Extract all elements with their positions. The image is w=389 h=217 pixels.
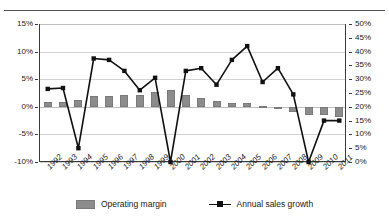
line-marker-1993 (61, 86, 65, 90)
left-axis-tick-label: 15% (0, 20, 33, 28)
right-axis-tick-label: 35% (355, 61, 389, 69)
left-axis-tickmark (35, 162, 38, 163)
left-axis-tickmark (35, 24, 38, 25)
right-axis-tickmark (349, 52, 352, 53)
legend-label-annual-sales-growth: Annual sales growth (237, 200, 314, 209)
right-axis-tick-label: 5% (355, 144, 389, 152)
line-marker-2004 (230, 58, 234, 62)
line-marker-1992 (46, 87, 50, 91)
left-axis-tick-label: 10% (0, 48, 33, 56)
legend-label-operating-margin: Operating margin (101, 200, 167, 209)
right-axis-tickmark (349, 121, 352, 122)
right-axis-tick-label: 50% (355, 20, 389, 28)
line-marker-2011 (337, 118, 341, 122)
right-axis-tickmark (349, 38, 352, 39)
line-marker-2010 (322, 118, 326, 122)
right-axis-tickmark (349, 93, 352, 94)
left-axis-tick-label: 5% (0, 75, 33, 83)
bar-swatch-icon (76, 200, 95, 209)
left-axis-tick-label: -5% (0, 130, 33, 138)
right-axis-tickmark (349, 65, 352, 66)
right-axis-tickmark (349, 24, 352, 25)
left-axis: 15%10%5%0%-5%-10% (0, 24, 35, 162)
right-axis-tick-label: 10% (355, 130, 389, 138)
right-axis-tickmark (349, 79, 352, 80)
line-marker-swatch-icon (209, 200, 231, 209)
legend-item-annual-sales-growth: Annual sales growth (209, 200, 314, 209)
plot-area (39, 24, 346, 162)
right-axis-tickmark (349, 148, 352, 149)
legend-item-operating-margin: Operating margin (76, 200, 167, 209)
chart-figure: 15%10%5%0%-5%-10% 50%45%40%35%30%25%20%1… (0, 0, 389, 217)
line-marker-1999 (153, 76, 157, 80)
line-marker-2007 (276, 66, 280, 70)
chart-legend: Operating margin Annual sales growth (0, 195, 389, 213)
right-axis-tickmark (349, 107, 352, 108)
right-axis-tick-label: 40% (355, 48, 389, 56)
right-axis-tick-label: 20% (355, 103, 389, 111)
line-marker-2003 (214, 83, 218, 87)
right-axis: 50%45%40%35%30%25%20%15%10%5%0% (349, 24, 389, 162)
line-marker-2002 (199, 66, 203, 70)
right-axis-tick-label: 25% (355, 89, 389, 97)
line-marker-2006 (260, 80, 264, 84)
right-axis-tick-label: 30% (355, 75, 389, 83)
line-marker-2008 (291, 92, 295, 96)
line-series (40, 24, 347, 162)
right-axis-tick-label: 15% (355, 117, 389, 125)
line-marker-1998 (138, 88, 142, 92)
line-marker-2001 (184, 69, 188, 73)
left-axis-tick-label: 0% (0, 103, 33, 111)
chart-title-fragment (4, 0, 385, 8)
line-marker-2005 (245, 44, 249, 48)
right-axis-tick-label: 45% (355, 34, 389, 42)
line-marker-1997 (122, 69, 126, 73)
left-axis-tickmark (35, 134, 38, 135)
annual-sales-growth-line (48, 46, 340, 162)
line-marker-1996 (107, 58, 111, 62)
left-axis-tickmark (35, 79, 38, 80)
right-axis-tickmark (349, 134, 352, 135)
line-marker-1994 (76, 146, 80, 150)
right-axis-tick-label: 0% (355, 158, 389, 166)
title-divider (4, 10, 385, 11)
left-axis-tick-label: -10% (0, 158, 33, 166)
left-axis-tickmark (35, 107, 38, 108)
left-axis-tickmark (35, 52, 38, 53)
line-marker-1995 (92, 56, 96, 60)
